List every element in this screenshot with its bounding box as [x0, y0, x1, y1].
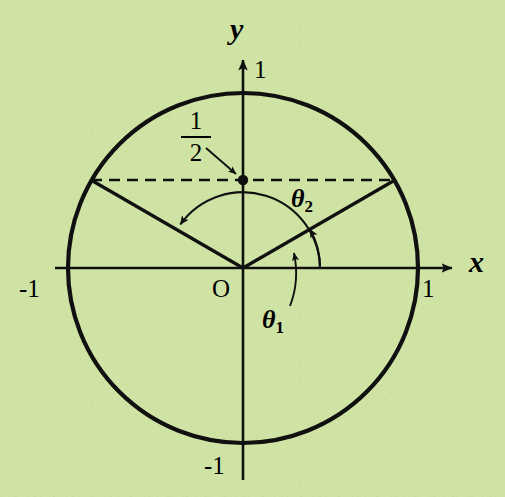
- x-tick-positive-one: 1: [422, 276, 435, 301]
- half-point-marker: [238, 175, 248, 185]
- y-tick-positive-one: 1: [254, 57, 267, 82]
- theta-1-subscript: 1: [276, 318, 285, 337]
- theta-2-symbol: θ: [291, 184, 305, 213]
- origin-label: O: [212, 276, 230, 301]
- half-denominator: 2: [181, 139, 211, 166]
- half-numerator: 1: [181, 108, 211, 135]
- y-tick-negative-one: -1: [204, 453, 225, 478]
- y-axis-label: y: [230, 14, 243, 44]
- figure-canvas: [0, 0, 505, 497]
- half-value-label: 1 2: [181, 108, 211, 167]
- fraction-bar: [181, 136, 211, 138]
- theta-2-subscript: 2: [305, 197, 314, 216]
- theta-2-label: θ2: [291, 186, 313, 215]
- theta-1-symbol: θ: [262, 305, 276, 334]
- x-tick-negative-one: -1: [19, 276, 40, 301]
- ray-theta-2: [91, 180, 243, 268]
- theta-1-label: θ1: [262, 307, 284, 336]
- x-axis-label: x: [469, 247, 484, 277]
- leader-line-theta-1: [290, 253, 296, 306]
- unit-circle-figure: x y 1 -1 -1 1 O 1 2 θ2 θ1: [0, 0, 505, 497]
